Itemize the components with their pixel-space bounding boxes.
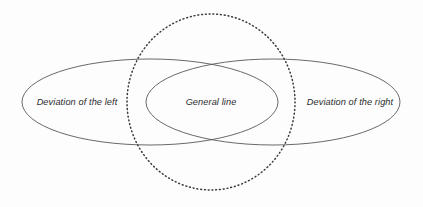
label-general-line: General line bbox=[186, 97, 237, 107]
label-deviation-left: Deviation of the left bbox=[37, 97, 118, 107]
venn-diagram-canvas: Deviation of the left General line Devia… bbox=[0, 0, 423, 207]
label-deviation-right: Deviation of the right bbox=[307, 97, 394, 107]
venn-diagram-container: Deviation of the left General line Devia… bbox=[0, 0, 423, 207]
